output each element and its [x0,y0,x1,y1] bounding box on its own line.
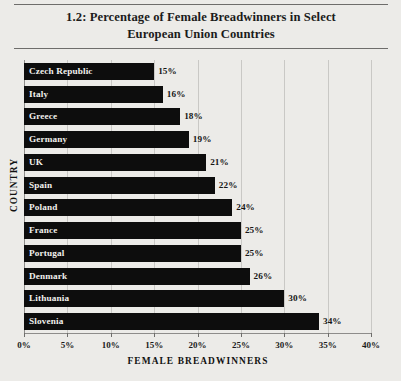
bar-row: Czech Republic15% [24,63,371,80]
bar-row: UK21% [24,154,371,171]
x-tick-mark [154,333,155,337]
bar-row: France25% [24,222,371,239]
bar-category-label: France [29,222,57,239]
bar-category-label: Poland [29,199,57,216]
bar [24,313,319,330]
bar-category-label: Italy [29,86,48,103]
x-tick-mark [371,333,372,337]
bar-value-label: 22% [219,177,238,194]
bar-row: Lithuania30% [24,290,371,307]
x-tick-mark [111,333,112,337]
x-tick-mark [24,333,25,337]
bar-row: Spain22% [24,177,371,194]
bar-value-label: 21% [210,154,229,171]
x-tick-label: 15% [134,340,174,350]
bar-row: Germany19% [24,131,371,148]
bar-category-label: Denmark [29,268,67,285]
bar-row: Greece18% [24,108,371,125]
x-axis-title: FEMALE BREADWINNERS [24,356,372,366]
bar [24,154,206,171]
x-tick-label: 35% [308,340,348,350]
bar-value-label: 25% [245,222,264,239]
bar-value-label: 16% [167,86,186,103]
bar-value-label: 19% [193,131,212,148]
bar-value-label: 15% [158,63,177,80]
x-tick-label: 0% [4,340,44,350]
bar-value-label: 26% [254,268,273,285]
x-tick-mark [328,333,329,337]
bar-value-label: 25% [245,245,264,262]
bar-row: Portugal25% [24,245,371,262]
x-tick-mark [198,333,199,337]
bar-series: Czech Republic15%Italy16%Greece18%German… [24,60,371,333]
bar-row: Italy16% [24,86,371,103]
bar-value-label: 18% [184,108,203,125]
bar-category-label: UK [29,154,43,171]
bar [24,177,215,194]
bar-category-label: Greece [29,108,57,125]
x-tick-mark [67,333,68,337]
chart-plot: Czech Republic15%Italy16%Greece18%German… [0,0,401,381]
x-tick-label: 10% [91,340,131,350]
bar-category-label: Spain [29,177,52,194]
bar-category-label: Lithuania [29,290,69,307]
bar-category-label: Germany [29,131,67,148]
bar-row: Slovenia34% [24,313,371,330]
x-tick-label: 40% [351,340,391,350]
x-tick-mark [284,333,285,337]
bar-row: Denmark26% [24,268,371,285]
x-tick-mark [241,333,242,337]
x-tick-label: 25% [221,340,261,350]
bar-value-label: 30% [288,290,307,307]
bar-value-label: 24% [236,199,255,216]
gridline [371,60,372,333]
x-tick-label: 20% [178,340,218,350]
y-axis-title: COUNTRY [9,140,19,230]
bar-category-label: Slovenia [29,313,63,330]
bar-category-label: Portugal [29,245,64,262]
bar-category-label: Czech Republic [29,63,93,80]
x-tick-label: 30% [264,340,304,350]
bar-value-label: 34% [323,313,342,330]
bar-row: Poland24% [24,199,371,216]
x-tick-label: 5% [47,340,87,350]
